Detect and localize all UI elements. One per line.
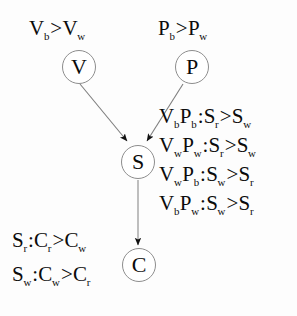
cond1-base: V	[159, 162, 174, 186]
right-sub: w	[78, 242, 86, 254]
cond2-base: P	[182, 133, 193, 157]
left-base: S	[209, 133, 220, 157]
relation: >	[219, 104, 232, 128]
right-sub: r	[87, 276, 91, 288]
left-base: S	[206, 191, 217, 215]
cond-sub: r	[23, 242, 27, 254]
cond2-base: P	[180, 104, 191, 128]
cond-base: S	[12, 262, 23, 286]
left-sub: w	[218, 176, 226, 188]
vb-base: V	[29, 16, 44, 40]
node-p-label: P	[186, 56, 198, 78]
pw-sub: w	[199, 30, 207, 42]
cond1-sub: w	[174, 147, 182, 159]
p-relation: >	[175, 16, 188, 40]
label-p-comparison: Pb>Pw	[158, 18, 208, 39]
v-relation: >	[50, 16, 63, 40]
cond2-sub: w	[194, 147, 202, 159]
cond2-base: P	[180, 191, 191, 215]
cond1-sub: w	[174, 176, 182, 188]
cond2-sub: w	[191, 205, 199, 217]
right-base: S	[237, 133, 248, 157]
cond-base: S	[12, 228, 23, 252]
diagram-canvas: V P S C Vb>Vw Pb>Pw VbPb:Sr>Sw VwPw:Sr>S…	[0, 0, 297, 316]
equation-row: VbPw:Sw>Sr	[159, 193, 256, 214]
right-equation-block: VbPb:Sr>Sw VwPw:Sr>Sw VwPb:Sw>Sr VbPw:Sw…	[159, 106, 256, 222]
node-c[interactable]: C	[122, 248, 156, 282]
vw-base: V	[62, 16, 77, 40]
cond2-sub: b	[194, 176, 200, 188]
left-base: S	[204, 104, 215, 128]
right-sub: r	[250, 176, 254, 188]
cond1-base: V	[159, 133, 174, 157]
cond1-base: V	[159, 191, 174, 215]
relation: >	[224, 133, 237, 157]
relation: >	[52, 228, 65, 252]
right-base: S	[238, 162, 249, 186]
right-base: C	[64, 228, 78, 252]
label-v-comparison: Vb>Vw	[29, 18, 86, 39]
right-sub: w	[248, 147, 256, 159]
left-base: C	[38, 262, 52, 286]
cond2-base: P	[182, 162, 193, 186]
relation: >	[60, 262, 73, 286]
right-sub: w	[243, 118, 251, 130]
equation-row: VbPb:Sr>Sw	[159, 106, 256, 127]
pw-base: P	[188, 16, 199, 40]
relation: >	[226, 191, 239, 215]
equation-row: VwPw:Sr>Sw	[159, 135, 256, 156]
left-base: C	[34, 228, 48, 252]
left-base: S	[206, 162, 217, 186]
node-p[interactable]: P	[175, 50, 209, 84]
node-v-label: V	[71, 56, 87, 78]
vw-sub: w	[77, 30, 85, 42]
right-base: C	[73, 262, 87, 286]
node-s[interactable]: S	[121, 145, 155, 179]
left-sub: w	[218, 205, 226, 217]
equation-row: Sr:Cr>Cw	[12, 230, 91, 251]
right-base: S	[232, 104, 243, 128]
node-v[interactable]: V	[62, 50, 96, 84]
right-base: S	[238, 191, 249, 215]
right-sub: r	[250, 205, 254, 217]
cond-sub: w	[23, 276, 31, 288]
cond1-base: V	[159, 104, 174, 128]
equation-row: Sw:Cw>Cr	[12, 264, 91, 285]
node-c-label: C	[132, 254, 147, 276]
bottom-left-equation-block: Sr:Cr>Cw Sw:Cw>Cr	[12, 230, 91, 293]
pb-base: P	[158, 16, 169, 40]
vb-sub: b	[44, 30, 50, 42]
equation-row: VwPb:Sw>Sr	[159, 164, 256, 185]
relation: >	[226, 162, 239, 186]
node-s-label: S	[132, 151, 144, 173]
edge-v-to-s	[80, 84, 127, 141]
